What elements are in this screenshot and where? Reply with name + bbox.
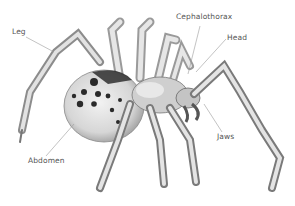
label-head: Head — [227, 33, 247, 42]
jaw — [184, 106, 188, 122]
label-leg: Leg — [12, 27, 26, 36]
spider-illustration — [0, 0, 295, 206]
leader-cephalothorax — [188, 26, 200, 74]
leader-abdomen — [46, 124, 74, 156]
leader-leg — [26, 37, 54, 52]
spider-anatomy-diagram: Leg Cephalothorax Head Abdomen Jaws — [0, 0, 295, 206]
leader-jaws — [204, 104, 222, 132]
label-cephalothorax: Cephalothorax — [176, 12, 232, 21]
jaw — [192, 104, 198, 120]
label-abdomen: Abdomen — [28, 156, 65, 165]
label-jaws: Jaws — [217, 132, 234, 141]
